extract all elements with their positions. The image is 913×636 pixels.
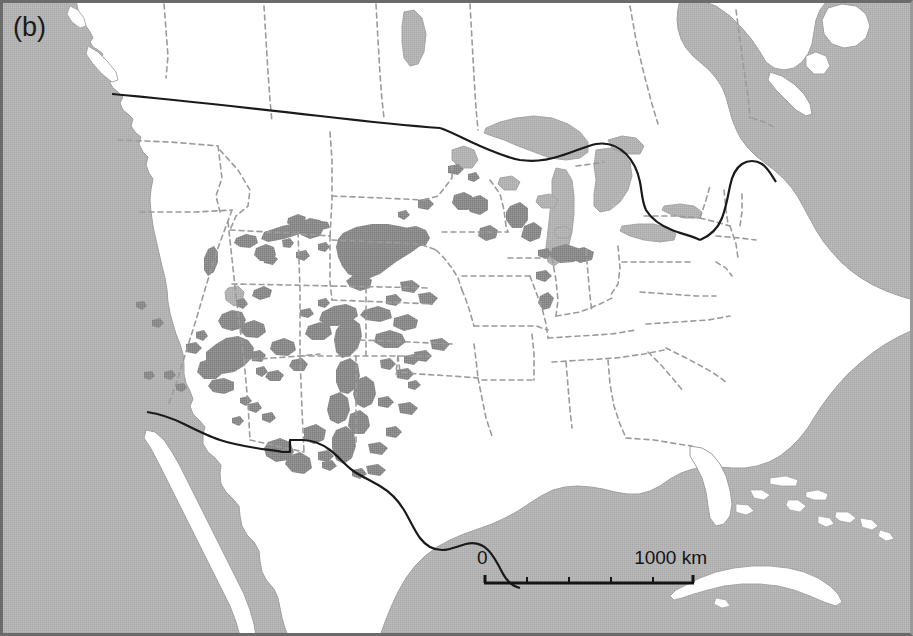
map-final [0, 0, 913, 636]
map-canvas [0, 0, 913, 636]
scale-bar-labels: 0 1000 km [481, 548, 699, 570]
scale-bar-min-label: 0 [477, 548, 488, 567]
scale-bar: 0 1000 km [481, 548, 699, 590]
panel-label: (b) [13, 14, 46, 41]
scale-bar-max-label: 1000 km [634, 548, 707, 567]
map-figure: (b) 0 1000 km [0, 0, 913, 636]
scale-bar-graphic [483, 574, 695, 585]
